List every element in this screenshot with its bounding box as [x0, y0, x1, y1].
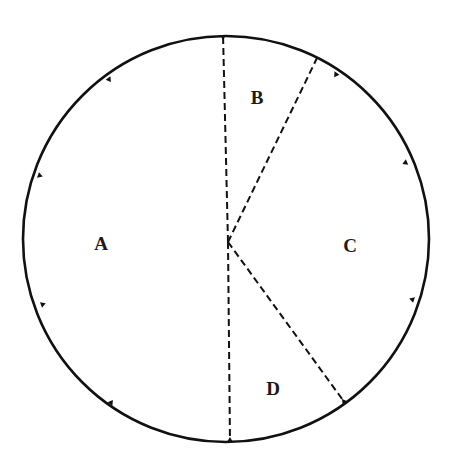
- dashed-line-top: [223, 34, 228, 242]
- dashed-line-bottom: [228, 242, 230, 443]
- region-label-b: B: [251, 87, 264, 108]
- tick-mark-icon: [227, 437, 233, 442]
- tick-mark-icon: [409, 297, 415, 303]
- circle-diagram: A B C D: [0, 0, 449, 475]
- region-label-c: C: [343, 235, 357, 256]
- tick-mark-icon: [40, 302, 46, 308]
- tick-mark-icon: [334, 71, 339, 77]
- dashed-line-upper-right: [228, 58, 317, 242]
- region-label-a: A: [94, 233, 108, 254]
- region-label-d: D: [266, 378, 280, 399]
- dashed-divider-lines: [223, 34, 345, 443]
- outer-circle: [23, 36, 429, 442]
- tick-mark-icon: [220, 35, 226, 40]
- tick-mark-icon: [402, 159, 408, 165]
- dashed-line-lower-right: [228, 242, 345, 403]
- tick-mark-icon: [106, 76, 111, 82]
- region-labels: A B C D: [94, 87, 357, 399]
- tick-mark-icon: [37, 172, 43, 178]
